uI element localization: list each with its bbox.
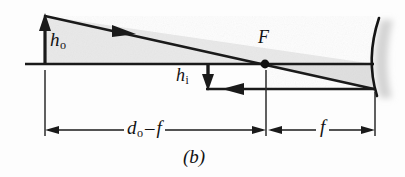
figure-caption: (b) <box>183 147 205 166</box>
optics-ray-diagram-figure: ho hi F do–f f (b) <box>0 0 405 177</box>
reflected-ray-arrowhead-icon <box>222 83 244 95</box>
minus-operator: – <box>143 117 157 138</box>
image-arrow <box>202 63 214 91</box>
focal-point-dot <box>261 60 270 69</box>
object-height-symbol: h <box>50 29 60 50</box>
object-distance-symbol: d <box>127 117 137 138</box>
object-height-label: ho <box>50 30 66 52</box>
image-height-label: hi <box>176 66 189 87</box>
object-distance-dimension-label: do–f <box>124 118 165 140</box>
object-height-subscript: o <box>60 38 67 52</box>
mirror-shadow <box>375 20 393 98</box>
image-height-symbol: h <box>176 65 185 85</box>
focal-point-label: F <box>258 28 269 46</box>
focal-length-term: f <box>157 117 162 138</box>
upper-shaded-triangle <box>45 16 374 64</box>
image-height-subscript: i <box>185 74 189 86</box>
focal-length-dimension-label: f <box>316 117 329 136</box>
